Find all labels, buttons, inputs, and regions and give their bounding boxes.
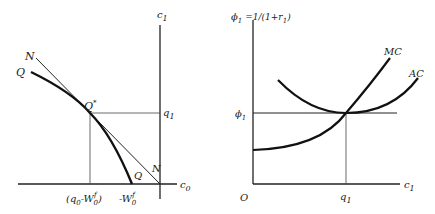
mc-label: MC	[383, 46, 402, 57]
q-curve	[31, 72, 132, 184]
c1-axis-label-left: c1	[157, 9, 168, 23]
q1-tick-label-right: q1	[340, 191, 352, 205]
ac-label: AC	[408, 68, 424, 79]
q-label-top: Q	[16, 66, 25, 79]
ac-curve	[278, 78, 418, 113]
q0-minus-w0f-label: (q0-Wf0)	[66, 191, 102, 207]
n-label-bottom: N	[151, 163, 162, 174]
c1-axis-label-right: c1	[404, 179, 415, 193]
left-panel: N Q N Q Q* c1 c0 q1 (q0-Wf0) -Wf0	[16, 9, 191, 207]
economics-diagram: N Q N Q Q* c1 c0 q1 (q0-Wf0) -Wf0	[0, 0, 435, 214]
c0-axis-label: c0	[180, 179, 191, 193]
n-label-top: N	[24, 50, 35, 63]
origin-label: O	[240, 192, 248, 203]
mc-curve	[253, 58, 390, 150]
q-star-label: Q*	[84, 99, 97, 113]
q-label-bottom: Q	[134, 170, 142, 181]
phi1-axis-label: ϕ1=1/(1+r1)	[231, 11, 291, 25]
minus-w0f-label: -Wf0	[119, 191, 137, 207]
right-panel: MC AC ϕ1=1/(1+r1) ϕ1 c1 O q1	[231, 11, 424, 205]
q1-tick-label: q1	[163, 107, 175, 121]
phi1-tick-label: ϕ1	[235, 108, 246, 122]
